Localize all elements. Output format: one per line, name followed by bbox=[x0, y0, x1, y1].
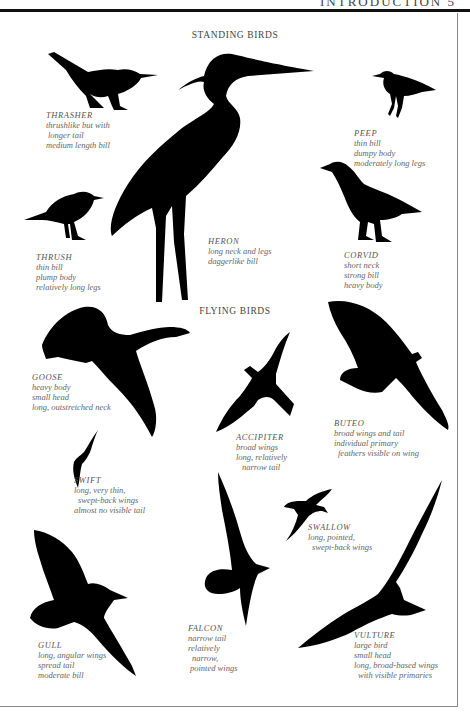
gull-label: GULL long, angular wings spread tail mod… bbox=[38, 640, 106, 680]
thrush-silhouette-icon bbox=[22, 190, 107, 245]
swift-label: SWIFT long, very thin, swept-back wings … bbox=[74, 475, 145, 515]
corvid-silhouette-icon bbox=[318, 160, 428, 246]
falcon-silhouette-icon bbox=[200, 470, 272, 630]
corvid-label: CORVID short neck strong bill heavy body bbox=[344, 250, 382, 290]
goose-label: GOOSE heavy body small head long, outstr… bbox=[32, 372, 111, 412]
peep-silhouette-icon bbox=[370, 68, 440, 120]
thrush-label: THRUSH thin bill plump body relatively l… bbox=[36, 252, 101, 292]
buteo-silhouette-icon bbox=[326, 296, 452, 432]
buteo-label: BUTEO broad wings and tail individual pr… bbox=[334, 418, 419, 458]
vulture-label: VULTURE large bird small head long, broa… bbox=[354, 630, 438, 680]
thrasher-label: THRASHER thrushlike but with longer tail… bbox=[46, 110, 110, 150]
falcon-label: FALCON narrow tail relatively narrow, po… bbox=[188, 623, 237, 673]
header-rule bbox=[0, 9, 470, 12]
vulture-silhouette-icon bbox=[296, 478, 446, 650]
accipiter-silhouette-icon bbox=[214, 330, 296, 434]
accipiter-label: ACCIPITER broad wings long, relatively n… bbox=[236, 432, 287, 472]
heron-label: HERON long neck and legs daggerlike bill bbox=[208, 236, 272, 266]
standing-birds-title: STANDING BIRDS bbox=[170, 30, 300, 40]
